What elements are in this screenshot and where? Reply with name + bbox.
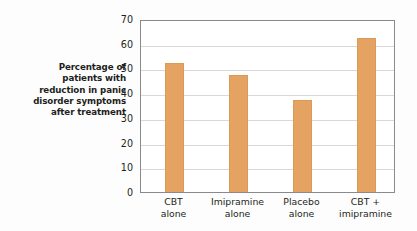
- x-tick-label-line: CBT +: [323, 196, 409, 208]
- y-tick-label: 10: [0, 163, 137, 173]
- bar-cbt-alone: [165, 63, 184, 192]
- bar-placebo-alone: [293, 100, 312, 192]
- y-tick-label: 50: [0, 64, 137, 74]
- y-tick-label: 40: [0, 89, 137, 99]
- y-tick-label: 70: [0, 15, 137, 25]
- y-tick-label: 30: [0, 114, 137, 124]
- y-axis-tick-labels: 70 60 50 40 30 20 10 0: [0, 0, 137, 231]
- y-tick-label: 60: [0, 40, 137, 50]
- x-axis-tick-labels: CBT alone Imipramine alone Placebo alone…: [140, 196, 395, 230]
- bar-cbt-plus-imipramine: [357, 38, 376, 192]
- bar-chart: Percentage of patients with reduction in…: [0, 0, 417, 231]
- y-tick-label: 20: [0, 139, 137, 149]
- bar-imipramine-alone: [229, 75, 248, 192]
- plot-area: [140, 20, 395, 193]
- x-tick-label-cbt-plus-imipramine: CBT + imipramine: [323, 196, 409, 219]
- y-tick-label: 0: [0, 188, 137, 198]
- x-tick-label-line: imipramine: [323, 208, 409, 220]
